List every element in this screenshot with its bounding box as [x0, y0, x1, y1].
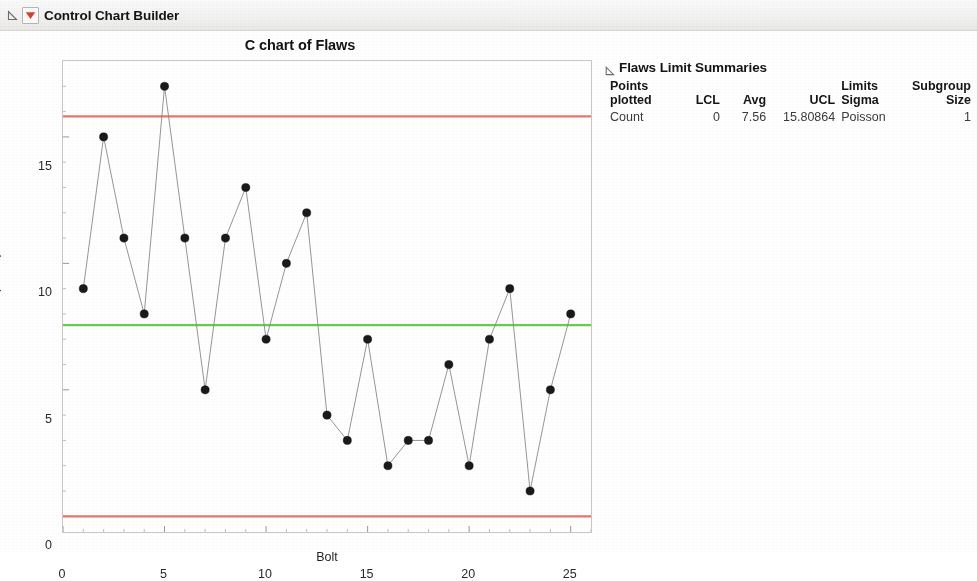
plot-frame	[62, 60, 592, 533]
report-title: Flaws Limit Summaries	[619, 60, 767, 75]
data-point[interactable]	[221, 234, 229, 242]
data-point[interactable]	[343, 436, 351, 444]
chart-title: C chart of Flaws	[0, 37, 600, 53]
data-point[interactable]	[546, 386, 554, 394]
data-point[interactable]	[567, 310, 575, 318]
col-subgroup-size: Subgroup Size	[904, 79, 977, 108]
triangle-disclosure-icon[interactable]	[6, 9, 19, 22]
data-point[interactable]	[282, 259, 290, 267]
data-point[interactable]	[181, 234, 189, 242]
control-chart-plot	[63, 61, 591, 532]
y-tick-label: 0	[0, 538, 52, 552]
x-tick-label: 5	[160, 567, 167, 581]
data-point[interactable]	[100, 133, 108, 141]
data-point[interactable]	[120, 234, 128, 242]
x-axis-label: Bolt	[62, 550, 592, 564]
data-point[interactable]	[364, 335, 372, 343]
x-tick-label: 0	[59, 567, 66, 581]
series-data-points	[79, 82, 575, 495]
series-path	[83, 86, 570, 491]
control-chart-builder-titlebar: Control Chart Builder	[0, 0, 977, 31]
cell-subgroup-size: 1	[904, 108, 977, 126]
data-point[interactable]	[506, 285, 514, 293]
x-tick-label: 25	[563, 567, 577, 581]
col-limits-sigma: Limits Sigma	[841, 79, 904, 108]
col-lcl: LCL	[680, 79, 726, 108]
table-row: Count07.5615.80864Poisson1	[610, 108, 977, 126]
report-header: Flaws Limit Summaries	[600, 60, 977, 75]
data-point[interactable]	[201, 386, 209, 394]
series-connector-line	[83, 86, 570, 491]
cell-avg: 7.56	[726, 108, 772, 126]
data-point[interactable]	[404, 436, 412, 444]
x-tick-label: 15	[360, 567, 374, 581]
col-avg: Avg	[726, 79, 772, 108]
data-point[interactable]	[384, 462, 392, 470]
data-point[interactable]	[424, 436, 432, 444]
data-point[interactable]	[79, 285, 87, 293]
cell-limits-sigma: Poisson	[841, 108, 904, 126]
triangle-disclosure-icon[interactable]	[604, 63, 616, 75]
y-tick-label: 10	[0, 285, 52, 299]
data-point[interactable]	[485, 335, 493, 343]
data-point[interactable]	[242, 183, 250, 191]
data-point[interactable]	[465, 462, 473, 470]
flaws-limit-summaries-panel: Flaws Limit Summaries Points plotted LCL…	[600, 60, 977, 126]
red-triangle-menu-icon[interactable]	[22, 7, 39, 24]
col-ucl: UCL	[772, 79, 841, 108]
window-title: Control Chart Builder	[44, 8, 179, 23]
data-point[interactable]	[262, 335, 270, 343]
data-point[interactable]	[140, 310, 148, 318]
x-tick-label: 10	[258, 567, 272, 581]
cell-ucl: 15.80864	[772, 108, 841, 126]
chart-panel: C chart of Flaws Count(Flaws) Bolt 05101…	[0, 30, 600, 552]
data-point[interactable]	[303, 209, 311, 217]
y-tick-label: 5	[0, 412, 52, 426]
x-tick-label: 20	[461, 567, 475, 581]
data-point[interactable]	[160, 82, 168, 90]
cell-points-plotted: Count	[610, 108, 680, 126]
cell-lcl: 0	[680, 108, 726, 126]
data-point[interactable]	[445, 360, 453, 368]
y-tick-label: 15	[0, 159, 52, 173]
table-header-row: Points plotted LCL Avg UCL Limits Sigma …	[610, 79, 977, 108]
data-point[interactable]	[323, 411, 331, 419]
data-point[interactable]	[526, 487, 534, 495]
col-points-plotted: Points plotted	[610, 79, 680, 108]
limit-summaries-table: Points plotted LCL Avg UCL Limits Sigma …	[610, 79, 977, 126]
